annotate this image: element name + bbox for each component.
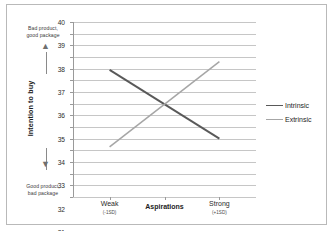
- up-arrow-shaft: [46, 52, 47, 74]
- legend-label-intrinsic: Intrinsic: [285, 102, 309, 109]
- legend-label-extrinsic: Extrinsic: [285, 116, 311, 123]
- legend-swatch-extrinsic: [266, 119, 283, 120]
- x-tick: [165, 197, 166, 200]
- x-axis-title: Aspirations: [120, 203, 210, 210]
- legend-item-intrinsic: Intrinsic: [266, 98, 311, 112]
- legend-swatch-intrinsic: [266, 105, 283, 106]
- series-group: [73, 22, 256, 197]
- anchor-bottom-line2: bad package: [28, 190, 58, 196]
- y-tick: 25: [70, 197, 73, 198]
- y-tick-label: 34: [58, 159, 65, 166]
- y-tick-label: 32: [58, 205, 65, 212]
- chart-figure: Bad product, good package ▲ ▼ Good produ…: [0, 0, 334, 231]
- y-tick-label: 38: [58, 65, 65, 72]
- anchor-top-line2: good package: [26, 32, 59, 38]
- anchor-bottom-line1: Good product,: [26, 183, 60, 189]
- y-tick-label: 33: [58, 182, 65, 189]
- y-tick-label: 40: [58, 19, 65, 26]
- x-label-sub: (+1SD): [184, 209, 254, 217]
- down-arrow-icon: ▼: [41, 160, 50, 169]
- y-axis-high-anchor-label: Bad product, good package: [12, 25, 74, 39]
- y-tick-label: 36: [58, 112, 65, 119]
- plot-area: 40393837363534333231302928272625: [73, 22, 256, 197]
- legend-item-extrinsic: Extrinsic: [266, 112, 311, 126]
- up-arrow-icon: ▲: [41, 42, 50, 51]
- x-label-sub: (-1SD): [75, 209, 145, 217]
- y-tick-label: 37: [58, 89, 65, 96]
- y-tick-label: 35: [58, 135, 65, 142]
- y-tick-label: 31: [58, 229, 65, 232]
- y-axis-title: Intention to buy: [26, 66, 35, 152]
- anchor-top-line1: Bad product,: [28, 25, 58, 31]
- y-tick-label: 39: [58, 42, 65, 49]
- series-line-extrinsic: [110, 62, 220, 147]
- chart-legend: Intrinsic Extrinsic: [266, 98, 311, 126]
